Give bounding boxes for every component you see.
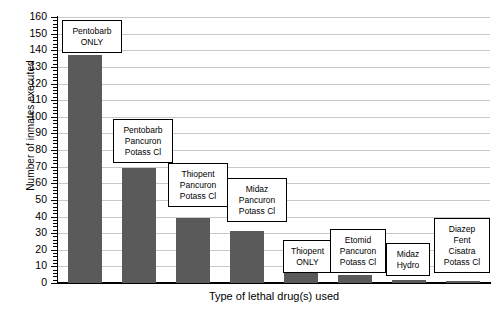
- y-tick-major: [51, 50, 58, 51]
- y-tick-label: 60: [0, 177, 47, 188]
- bar-label-line: Potass Cl: [239, 206, 275, 217]
- y-tick-label: 70: [0, 161, 47, 172]
- gridline: [58, 84, 490, 85]
- bar: [122, 168, 156, 283]
- bar-label-line: ONLY: [81, 37, 104, 48]
- gridline: [58, 17, 490, 18]
- bar-label-callout: PentobarbPancuronPotass Cl: [113, 119, 173, 163]
- y-tick-label: 110: [0, 94, 47, 105]
- y-tick-major: [51, 67, 58, 68]
- gridline: [58, 67, 490, 68]
- y-tick-label: 50: [0, 194, 47, 205]
- bar-label-line: Midaz: [397, 249, 420, 260]
- bar-label-callout: ThiopentONLY: [283, 240, 332, 273]
- bar-label-callout: MidazPancuronPotass Cl: [227, 178, 287, 222]
- bar-label-callout: EtomidPancuronPotass Cl: [330, 229, 386, 273]
- y-tick-label: 150: [0, 28, 47, 39]
- bar-label-line: Pancuron: [125, 136, 161, 147]
- y-tick-major: [51, 84, 58, 85]
- y-tick-label: 160: [0, 11, 47, 22]
- bar: [176, 218, 210, 283]
- y-tick-major: [51, 283, 58, 284]
- bar-label-line: Thiopent: [181, 169, 214, 180]
- bar-label-callout: DiazepFentCisatraPotass Cl: [434, 218, 490, 273]
- bar-label-line: Cisatra: [449, 246, 476, 257]
- y-tick-label: 10: [0, 260, 47, 271]
- y-tick-major: [51, 233, 58, 234]
- y-tick-label: 80: [0, 144, 47, 155]
- gridline: [58, 100, 490, 101]
- x-axis-title: Type of lethal drug(s) used: [58, 290, 490, 302]
- bar-label-line: Midaz: [246, 184, 269, 195]
- bar-label-line: ONLY: [296, 257, 319, 268]
- bar: [446, 281, 480, 283]
- y-tick-major: [51, 183, 58, 184]
- bar-label-line: Fent: [453, 235, 470, 246]
- y-tick-label: 30: [0, 227, 47, 238]
- y-tick-label: 90: [0, 127, 47, 138]
- y-tick-major: [51, 250, 58, 251]
- y-tick-major: [51, 266, 58, 267]
- y-tick-major: [51, 34, 58, 35]
- bar-label-line: Pancuron: [180, 180, 216, 191]
- bar-label-line: Potass Cl: [180, 191, 216, 202]
- gridline: [58, 117, 490, 118]
- bar-label-line: Hydro: [397, 260, 420, 271]
- bar-label-line: Potass Cl: [340, 257, 376, 268]
- y-tick-label: 130: [0, 61, 47, 72]
- bar-label-callout: PentobarbONLY: [62, 20, 122, 53]
- y-tick-label: 40: [0, 211, 47, 222]
- bar-label-line: Etomid: [345, 235, 371, 246]
- gridline: [58, 50, 490, 51]
- bar-label-line: Potass Cl: [444, 257, 480, 268]
- bar: [338, 275, 372, 283]
- y-tick-label: 140: [0, 44, 47, 55]
- y-tick-major: [51, 17, 58, 18]
- y-tick-major: [51, 150, 58, 151]
- y-tick-label: 20: [0, 244, 47, 255]
- bar-label-callout: MidazHydro: [386, 243, 430, 276]
- y-tick-major: [51, 217, 58, 218]
- bar: [392, 280, 426, 283]
- bar: [68, 55, 102, 283]
- bar-label-line: Thiopent: [291, 246, 324, 257]
- bar-chart: Number of inmates executed 0102030405060…: [0, 0, 501, 311]
- gridline: [58, 34, 490, 35]
- bar-label-line: Pancuron: [239, 195, 275, 206]
- bar: [230, 231, 264, 283]
- y-tick-major: [51, 117, 58, 118]
- y-tick-label: 100: [0, 111, 47, 122]
- bar-label-callout: ThiopentPancuronPotass Cl: [168, 163, 228, 207]
- bar-label-line: Potass Cl: [125, 147, 161, 158]
- y-tick-label: 120: [0, 78, 47, 89]
- y-tick-major: [51, 133, 58, 134]
- y-tick-major: [51, 200, 58, 201]
- y-tick-major: [51, 100, 58, 101]
- bar-label-line: Pancuron: [340, 246, 376, 257]
- bar-label-line: Pentobarb: [123, 125, 162, 136]
- bar-label-line: Pentobarb: [72, 26, 111, 37]
- bar-label-line: Diazep: [449, 224, 475, 235]
- y-tick-major: [51, 167, 58, 168]
- y-tick-label: 0: [0, 277, 47, 288]
